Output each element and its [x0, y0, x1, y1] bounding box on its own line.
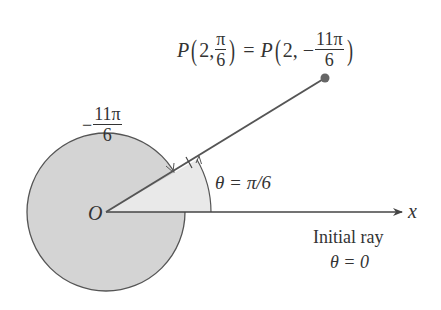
- point-name-rhs: P: [261, 40, 273, 60]
- minus-sign: −: [82, 116, 92, 134]
- angle-label: θ = π/6: [215, 173, 271, 192]
- point-r-lhs: 2,: [199, 40, 214, 60]
- negative-angle-label: − 11π 6: [82, 105, 123, 144]
- initial-ray-label: Initial ray: [313, 228, 383, 246]
- paren-close: ): [347, 35, 353, 65]
- negative-angle-fraction: 11π 6: [93, 105, 121, 144]
- point-label: P ( 2, π 6 ) = P ( 2, − 11π 6 ): [177, 30, 355, 69]
- point-theta-lhs: π 6: [215, 30, 226, 69]
- point-name-lhs: P: [177, 40, 189, 60]
- paren-close: ): [229, 35, 235, 65]
- x-axis-label: x: [408, 201, 417, 221]
- point-p: [321, 74, 330, 83]
- equals-sign: =: [243, 40, 254, 60]
- point-theta-rhs: 11π 6: [315, 30, 343, 69]
- paren-open: (: [191, 35, 197, 65]
- origin-label: O: [88, 203, 102, 223]
- paren-open: (: [275, 35, 281, 65]
- initial-ray-angle: θ = 0: [330, 253, 369, 271]
- point-r-rhs: 2, −: [283, 40, 314, 60]
